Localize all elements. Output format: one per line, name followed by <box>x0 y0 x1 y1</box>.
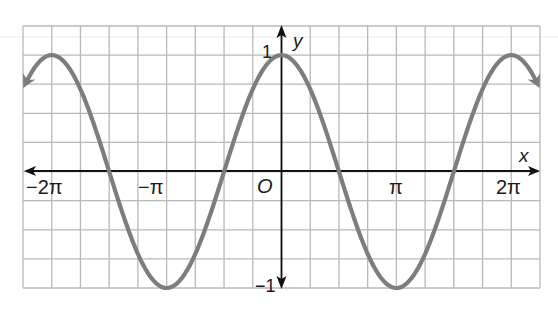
x-tick-label-neg-pi: −π <box>138 176 163 198</box>
y-tick-label-1: 1 <box>262 42 272 62</box>
y-tick-label-neg1: −1 <box>255 276 276 296</box>
y-axis-label: y <box>291 30 304 51</box>
x-tick-label-neg-2pi: −2π <box>26 176 63 198</box>
x-tick-label-2pi: 2π <box>496 176 521 198</box>
x-tick-label-pi: π <box>389 176 403 198</box>
y-axis <box>277 25 287 289</box>
x-axis-label: x <box>518 145 530 166</box>
origin-label: O <box>257 175 273 197</box>
cosine-graph: y x 1 −1 O −2π −π π 2π <box>0 0 558 314</box>
